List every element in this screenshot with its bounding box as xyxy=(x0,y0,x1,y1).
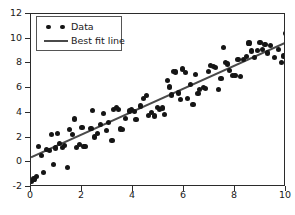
scatter-plot-figure: -2024681012 0246810 Data Best fit line xyxy=(0,0,295,215)
data-point xyxy=(109,138,114,143)
data-point xyxy=(206,69,211,74)
data-point xyxy=(51,162,56,167)
x-tick-label: 6 xyxy=(170,190,196,200)
y-tick-label: 12 xyxy=(0,8,22,18)
data-point xyxy=(88,126,93,131)
data-point xyxy=(152,113,157,118)
data-point xyxy=(283,31,285,36)
line-marker-icon xyxy=(41,35,71,47)
data-point xyxy=(249,48,254,53)
data-point xyxy=(70,132,75,137)
scatter-marker-icon xyxy=(41,21,71,33)
y-tick-label: 0 xyxy=(0,156,22,166)
data-point xyxy=(265,50,270,55)
legend-label-data: Data xyxy=(71,22,94,32)
data-point xyxy=(79,125,84,130)
data-point xyxy=(132,109,137,114)
data-point xyxy=(49,132,54,137)
data-point xyxy=(176,90,181,95)
x-tick-label: 10 xyxy=(272,190,295,200)
data-point xyxy=(235,57,240,62)
data-point xyxy=(47,148,52,153)
data-point xyxy=(160,105,165,110)
y-tick-label: 8 xyxy=(0,57,22,67)
data-point xyxy=(216,87,221,92)
data-point xyxy=(221,45,226,50)
data-point xyxy=(82,144,87,149)
x-tick-label: 0 xyxy=(17,190,43,200)
data-point xyxy=(190,102,195,107)
data-point xyxy=(62,143,67,148)
legend-item-data: Data xyxy=(41,20,117,34)
x-tick-label: 2 xyxy=(68,190,94,200)
data-point xyxy=(188,82,193,87)
data-point xyxy=(232,73,237,78)
x-tick-label: 8 xyxy=(221,190,247,200)
legend-label-best-fit-line: Best fit line xyxy=(71,36,125,46)
chart-legend: Data Best fit line xyxy=(36,16,122,51)
data-point xyxy=(53,145,58,150)
data-point xyxy=(133,117,138,122)
data-point xyxy=(225,61,230,66)
data-point xyxy=(169,92,174,97)
data-point xyxy=(72,116,77,121)
x-tick-label: 4 xyxy=(119,190,145,200)
data-point xyxy=(281,53,285,58)
data-point xyxy=(262,42,267,47)
data-point xyxy=(213,65,218,70)
y-tick-label: 6 xyxy=(0,82,22,92)
data-point xyxy=(138,103,143,108)
y-tick-label: 10 xyxy=(0,33,22,43)
data-point xyxy=(246,40,251,45)
data-point xyxy=(167,84,172,89)
legend-item-best-fit-line: Best fit line xyxy=(41,34,117,48)
y-tick-label: 2 xyxy=(0,132,22,142)
data-point xyxy=(116,107,121,112)
data-point xyxy=(203,86,208,91)
y-tick-label: 4 xyxy=(0,107,22,117)
data-point xyxy=(144,93,149,98)
data-point xyxy=(165,78,170,83)
